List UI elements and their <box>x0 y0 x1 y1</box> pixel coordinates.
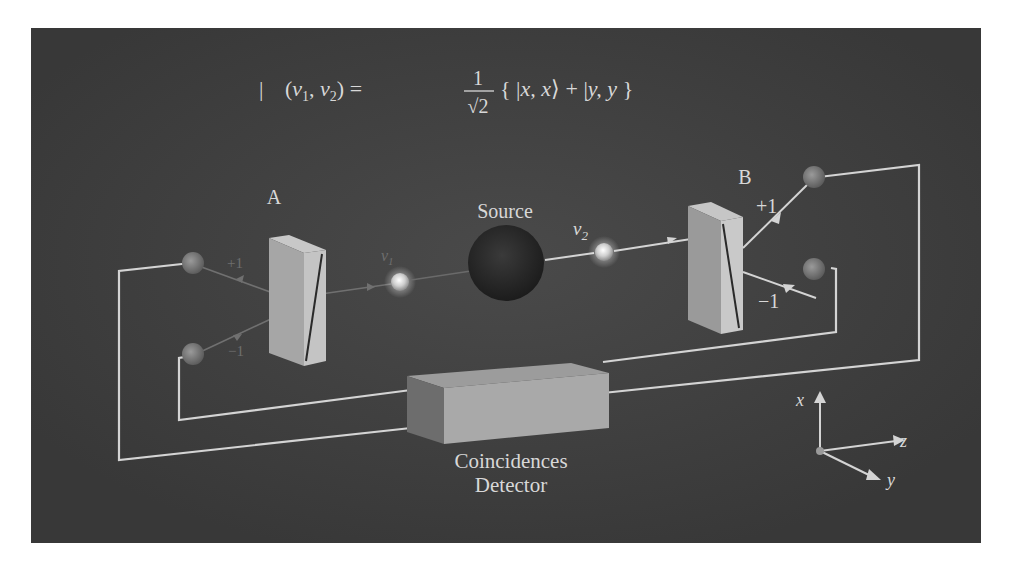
source-label: Source <box>477 200 533 222</box>
analyzer-a <box>269 235 326 366</box>
equation-rhs: { |x, x⟩ + |y, y } <box>500 76 633 101</box>
equation-fraction-denominator: √2 <box>468 95 489 117</box>
equation-lhs: (v1, v2) = <box>285 76 362 104</box>
equation-ket-bar: | <box>259 76 263 101</box>
analyzer-b <box>688 202 743 334</box>
axis-y-label: y <box>885 470 895 490</box>
analyzer-b-minus-label: −1 <box>758 290 779 312</box>
detector-a-minus <box>182 343 204 365</box>
photon-1 <box>384 266 416 298</box>
detector-label-line-1: Coincidences <box>454 449 567 473</box>
epr-experiment-diagram: | (v1, v2) = 1 √2 { |x, x⟩ + |y, y } <box>31 28 981 543</box>
analyzer-b-label: B <box>738 166 751 188</box>
analyzer-a-minus-label: −1 <box>228 343 244 359</box>
detector-b-minus <box>803 258 825 280</box>
analyzer-a-plus-label: +1 <box>227 255 243 271</box>
detector-label-line-2: Detector <box>475 473 547 497</box>
axis-z-label: z <box>899 431 907 451</box>
detector-b-plus <box>803 166 825 188</box>
analyzer-b-plus-label: +1 <box>756 195 777 217</box>
detector-a-plus <box>182 252 204 274</box>
axis-x-label: x <box>795 390 804 410</box>
analyzer-a-label: A <box>267 186 282 208</box>
axis-origin <box>816 447 824 455</box>
source-sphere <box>468 225 544 301</box>
equation-fraction-numerator: 1 <box>473 67 483 89</box>
photon-2 <box>588 236 620 268</box>
